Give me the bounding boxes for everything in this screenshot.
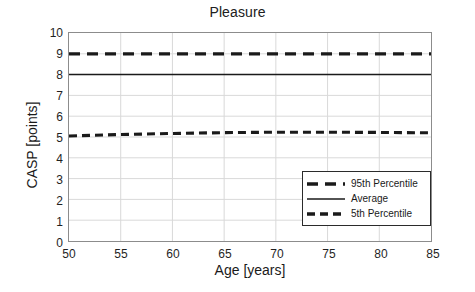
y-axis-tick-label: 2 (56, 194, 63, 208)
legend-label: Average (351, 193, 388, 205)
legend-label: 95th Percentile (351, 178, 418, 190)
legend-item-5th-percentile: 5th Percentile (307, 206, 425, 221)
x-axis-tick-label: 70 (270, 247, 283, 261)
y-axis-tick-label: 3 (56, 173, 63, 187)
y-axis-tick-label: 4 (56, 152, 63, 166)
legend-label: 5th Percentile (351, 208, 412, 220)
x-axis-tick-label: 85 (426, 247, 439, 261)
chart-container: Pleasure 012345678910 5055606570758085 C… (0, 0, 475, 292)
y-axis-title: CASP [points] (24, 75, 40, 215)
y-axis-tick-label: 1 (56, 215, 63, 229)
y-axis-tick-label: 9 (56, 47, 63, 61)
x-axis-tick-label: 60 (166, 247, 179, 261)
chart-title: Pleasure (0, 4, 475, 20)
y-axis-tick-label: 7 (56, 89, 63, 103)
x-axis-tick-label: 75 (322, 247, 335, 261)
x-axis-tick-label: 65 (218, 247, 231, 261)
x-axis-tick-label: 80 (374, 247, 387, 261)
legend-item-95th-percentile: 95th Percentile (307, 176, 425, 191)
y-axis-tick-label: 8 (56, 68, 63, 82)
y-axis-tick-label: 6 (56, 110, 63, 124)
chart-legend: 95th Percentile Average 5th Percentile (302, 171, 431, 226)
legend-swatch-dashed-thick-icon (307, 178, 345, 190)
x-axis-title: Age [years] (68, 262, 432, 278)
y-axis-tick-label: 5 (56, 131, 63, 145)
legend-swatch-dashed-icon (307, 208, 345, 220)
legend-swatch-solid-icon (307, 193, 345, 205)
series-line-2 (69, 132, 431, 136)
x-axis-tick-label: 50 (62, 247, 75, 261)
legend-item-average: Average (307, 191, 425, 206)
x-axis-tick-label: 55 (114, 247, 127, 261)
y-axis-tick-label: 10 (50, 26, 63, 40)
